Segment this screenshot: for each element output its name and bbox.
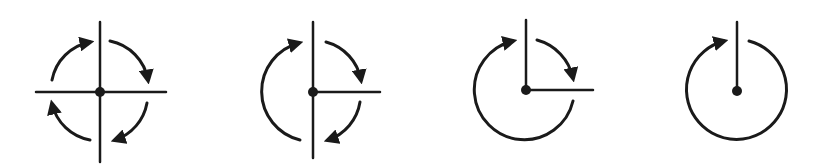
figure-single-ray <box>687 22 787 139</box>
arc-arrow-upper-right <box>110 41 148 80</box>
arc-arrow-left-long <box>262 43 300 140</box>
figure-four-quadrant <box>36 22 166 162</box>
center-dot <box>732 86 742 96</box>
arc-arrow-lower-right <box>328 102 360 140</box>
arc-arrow-lower-left <box>52 104 90 140</box>
figure-three-ray <box>262 22 380 158</box>
center-dot <box>95 87 105 97</box>
center-dot <box>308 87 318 97</box>
arc-arrow-lower-right <box>115 103 147 140</box>
figure-two-ray <box>474 20 593 140</box>
center-dot <box>521 85 531 95</box>
arc-arrow-upper-left <box>52 42 90 80</box>
arc-arrow-upper-right <box>326 42 361 80</box>
arc-arrow-upper-right <box>537 40 573 78</box>
rotation-diagrams <box>0 0 820 167</box>
